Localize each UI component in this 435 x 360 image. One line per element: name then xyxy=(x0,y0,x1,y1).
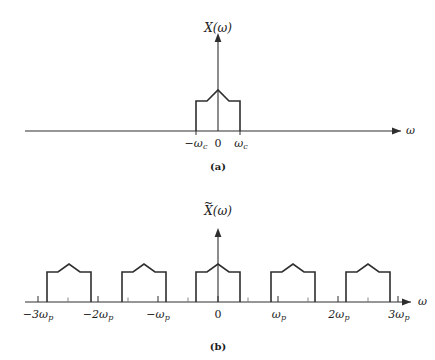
panel-b-tick-label-2: −ωp xyxy=(146,309,170,322)
panel-a-neg-sub: c xyxy=(203,142,207,151)
panel-b-base-1: ω xyxy=(99,308,108,321)
panel-b-tick-label-1: −2ωp xyxy=(83,309,114,322)
panel-b-coef-6: 3 xyxy=(388,308,395,321)
panel-b-sign-1: − xyxy=(83,308,92,321)
panel-a-neg-sign: − xyxy=(185,137,194,150)
panel-b-replica-minus-1 xyxy=(122,264,166,302)
panel-a-tick-label-negative-cutoff: −ωc xyxy=(185,138,208,151)
panel-a-neg-base: ω xyxy=(194,137,203,150)
panel-b-function-tilde: ~ xyxy=(204,198,213,209)
panel-b-tick-label-6: 3ωp xyxy=(388,309,409,322)
panel-b-horizontal-axis-arrowhead xyxy=(402,299,411,306)
panel-b-sign-2: − xyxy=(146,308,155,321)
panel-b-graphics xyxy=(25,228,411,305)
panel-b-sub-1: p xyxy=(108,313,113,322)
figure-svg xyxy=(0,0,435,360)
panel-b-base-2: ω xyxy=(155,308,164,321)
panel-a-tick-label-zero: 0 xyxy=(215,138,222,149)
panel-b-caption: (b) xyxy=(210,342,226,352)
panel-b-sub-5: p xyxy=(345,313,350,322)
panel-b-function-base-wrap: ~X xyxy=(204,205,213,217)
panel-b-replica-minus-2 xyxy=(47,264,91,302)
panel-b-axis-label: ω xyxy=(418,296,427,307)
panel-b-sub-0: p xyxy=(48,313,53,322)
panel-a-axis-label: ω xyxy=(406,125,415,136)
panel-b-tick-label-0: −3ωp xyxy=(23,309,54,322)
panel-a-graphics xyxy=(25,33,401,135)
panel-b-tick-label-3: 0 xyxy=(215,309,222,320)
panel-b-base-5: ω xyxy=(335,308,344,321)
panel-b-replica-plus-2 xyxy=(346,264,390,302)
panel-b-base-0: ω xyxy=(39,308,48,321)
panel-b-vertical-axis-arrowhead xyxy=(215,228,222,237)
panel-a-tick-label-positive-cutoff: ωc xyxy=(234,138,248,151)
panel-b-sub-2: p xyxy=(165,313,170,322)
panel-b-tick-label-5: 2ωp xyxy=(328,309,349,322)
panel-a-caption: (a) xyxy=(210,162,226,172)
panel-b-base-6: ω xyxy=(395,308,404,321)
panel-a-function-base: X xyxy=(204,21,213,35)
panel-b-sub-4: p xyxy=(281,313,286,322)
panel-b-sub-6: p xyxy=(405,313,410,322)
panel-b-coef-3: 0 xyxy=(215,308,222,321)
panel-b-sign-0: − xyxy=(23,308,32,321)
panel-a-horizontal-axis-arrowhead xyxy=(392,128,401,135)
panel-b-function-arg: (ω) xyxy=(213,204,232,218)
panel-a-function-arg: (ω) xyxy=(213,21,232,35)
panel-a-pos-sub: c xyxy=(243,142,247,151)
panel-a-function-label: X(ω) xyxy=(204,22,232,34)
figure-container: X(ω) ω −ωc 0 ωc (a) ~X(ω) ω −3ωp −2ωp −ω… xyxy=(0,0,435,360)
panel-b-base-4: ω xyxy=(272,308,281,321)
panel-b-function-label: ~X(ω) xyxy=(204,205,232,217)
panel-b-tick-label-4: ωp xyxy=(272,309,286,322)
panel-b-coef-5: 2 xyxy=(328,308,335,321)
panel-a-pos-base: ω xyxy=(234,137,243,150)
